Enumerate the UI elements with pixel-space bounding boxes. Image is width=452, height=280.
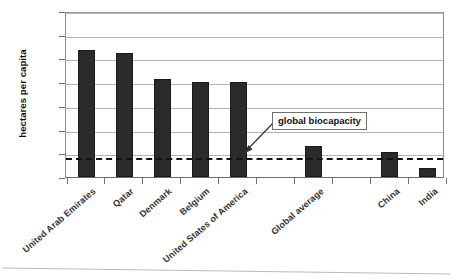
gridline-12.0 [66, 37, 443, 38]
bar-belgium [192, 82, 209, 177]
x-axis-label-india: India [416, 186, 439, 208]
x-tick-mark [256, 178, 257, 184]
page-rule-divider [0, 252, 452, 278]
x-axis-label-global-average: Global average [269, 186, 325, 237]
x-tick-mark [446, 178, 447, 184]
annotation-global-biocapacity: global biocapacity [272, 112, 367, 130]
x-tick-mark [67, 178, 68, 184]
x-axis-label-united-arab-emirates: United Arab Emirates [21, 186, 98, 255]
x-tick-mark [104, 178, 105, 184]
x-axis-label-qatar: Qatar [111, 186, 136, 209]
x-tick-mark [408, 178, 409, 184]
chart-figure: hectares per capita 0.02.04.06.08.010.01… [0, 0, 452, 280]
x-tick-mark [294, 178, 295, 184]
x-tick-mark [180, 178, 181, 184]
bar-india [419, 168, 436, 177]
x-tick-mark [218, 178, 219, 184]
bar-denmark [154, 79, 171, 177]
bar-china [381, 152, 398, 177]
gridline-14.0 [66, 13, 443, 14]
x-tick-mark [142, 178, 143, 184]
x-tick-mark [332, 178, 333, 184]
x-axis-label-china: China [375, 186, 401, 210]
x-axis-label-denmark: Denmark [138, 186, 174, 219]
x-axis-label-belgium: Belgium [178, 186, 212, 217]
x-tick-mark [370, 178, 371, 184]
y-tick-mark [59, 178, 65, 179]
y-axis-title: hectares per capita [17, 9, 28, 179]
